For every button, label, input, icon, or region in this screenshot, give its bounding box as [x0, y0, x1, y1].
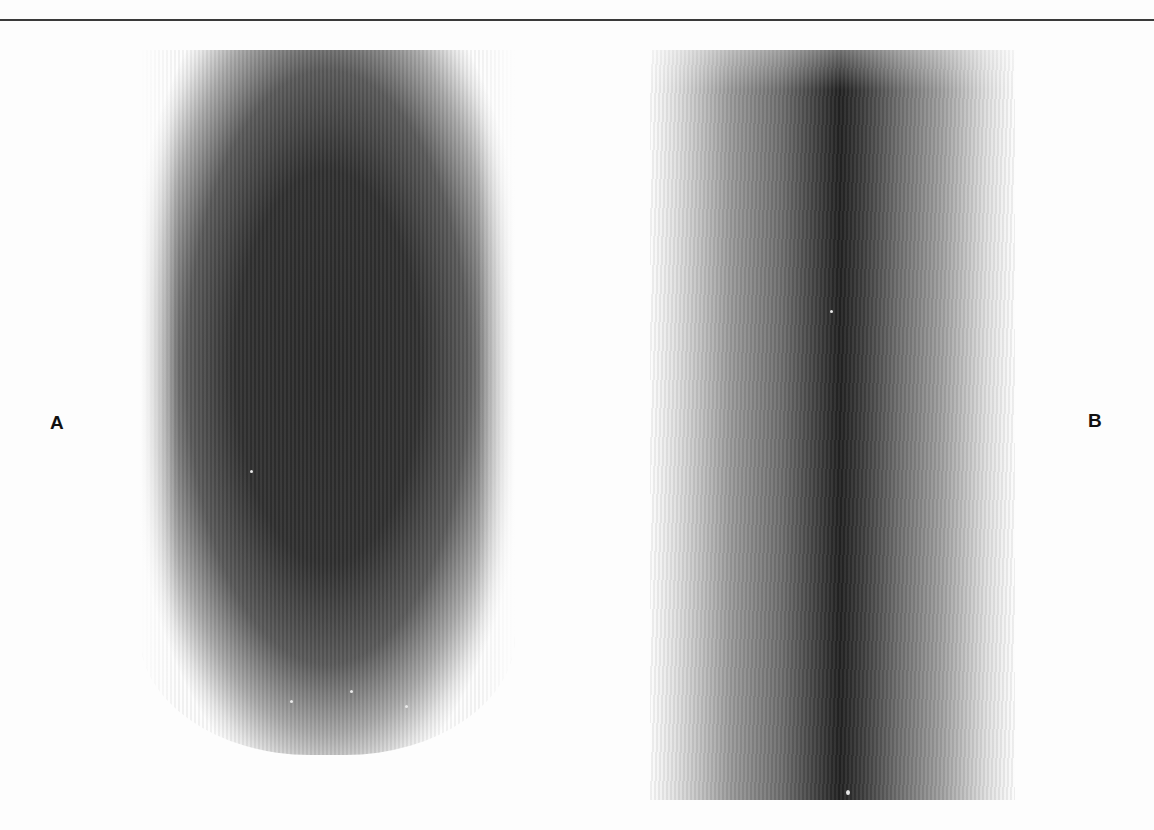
speck — [405, 705, 408, 708]
speck — [250, 470, 253, 473]
panel-label-b: B — [1088, 410, 1102, 432]
panel-label-a: A — [50, 412, 64, 434]
top-rule — [0, 19, 1154, 21]
diffraction-image-a — [140, 50, 515, 755]
diffraction-image-b — [650, 50, 1015, 800]
speck — [830, 310, 833, 313]
speck — [846, 790, 850, 795]
speck — [350, 690, 353, 693]
speck — [290, 700, 293, 703]
